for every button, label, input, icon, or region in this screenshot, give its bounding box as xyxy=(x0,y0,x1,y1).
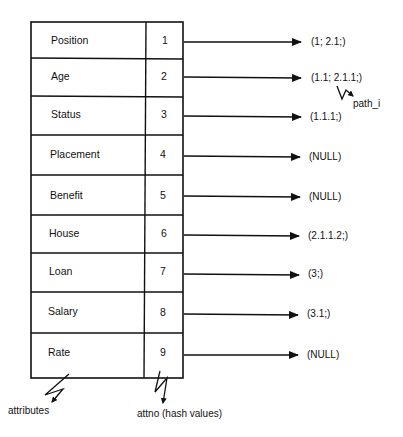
attribute-cell: Benefit xyxy=(50,189,83,201)
pointer-value: (NULL) xyxy=(309,191,341,202)
pointer-value: (3.1;) xyxy=(307,308,330,319)
attribute-cell: Salary xyxy=(48,305,78,317)
hash-table-diagram: Position Age Status Placement Benefit Ho… xyxy=(0,0,403,437)
attribute-cell: Age xyxy=(51,70,70,82)
attno-cell: 3 xyxy=(147,108,181,120)
pointer-value: (1.1; 2.1.1;) xyxy=(311,72,362,83)
pointer-value: (1.1.1;) xyxy=(310,111,342,122)
attributes-label: attributes xyxy=(8,405,49,416)
pointer-value: (2.1.1.2;) xyxy=(308,230,348,241)
pointer-value: (3;) xyxy=(308,268,323,279)
attno-cell: 6 xyxy=(147,227,181,239)
attribute-cell: Placement xyxy=(50,148,100,160)
attribute-cell: Status xyxy=(51,108,81,120)
pointer-value: (NULL) xyxy=(309,151,341,162)
pointer-value: (NULL) xyxy=(307,349,339,360)
attno-cell: 4 xyxy=(146,148,180,160)
pointer-value: (1; 2.1;) xyxy=(311,36,345,47)
attno-cell: 9 xyxy=(146,346,180,358)
attno-cell: 2 xyxy=(147,70,181,82)
attribute-cell: House xyxy=(49,227,79,239)
diagram-lines xyxy=(0,0,403,437)
attno-cell: 8 xyxy=(146,306,180,318)
attribute-cell: Position xyxy=(51,34,88,46)
attno-cell: 7 xyxy=(146,265,180,277)
path-i-label: path_i xyxy=(353,98,380,109)
attno-cell: 1 xyxy=(148,34,182,46)
attribute-cell: Loan xyxy=(49,265,72,277)
attno-cell: 5 xyxy=(146,189,180,201)
attno-label: attno (hash values) xyxy=(137,408,222,419)
attribute-cell: Rate xyxy=(48,346,70,358)
